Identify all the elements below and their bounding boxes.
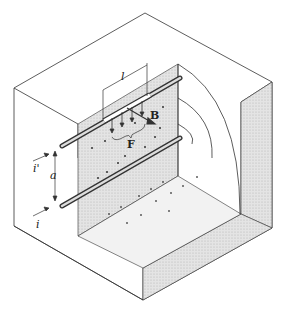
field-label: B xyxy=(150,109,159,122)
diagram-canvas: l B F a i' i xyxy=(0,0,282,316)
right-face xyxy=(241,82,272,228)
block-diagram: l B F a i' i xyxy=(0,0,282,316)
force-label: F xyxy=(127,138,135,151)
current-top-label: i' xyxy=(33,162,40,175)
current-bottom-label: i xyxy=(36,218,40,231)
length-label: l xyxy=(121,70,125,83)
separation-label: a xyxy=(50,169,57,182)
